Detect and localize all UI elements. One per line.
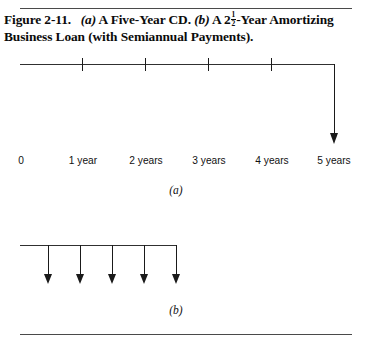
panel-b-payment-arrow-head-icon-2 xyxy=(76,274,84,284)
panel-b-payment-arrow-shaft-2 xyxy=(80,245,81,276)
panel-b-payment-arrow-shaft-4 xyxy=(144,245,145,276)
panel-b-payment-arrow-head-icon-3 xyxy=(108,274,116,284)
panel-b-payment-arrow-head-icon-1 xyxy=(44,274,52,284)
panel-b-payment-arrow-shaft-1 xyxy=(48,245,49,276)
panel-b-amortizing-loan: (b) xyxy=(0,0,372,350)
panel-b-payment-arrow-shaft-5 xyxy=(176,245,177,276)
figure-page: Figure 2-11. (a) A Five-Year CD. (b) A 2… xyxy=(0,0,372,350)
panel-b-payment-arrow-shaft-3 xyxy=(112,245,113,276)
panel-b-payment-arrow-head-icon-5 xyxy=(172,274,180,284)
panel-b-timeline-axis xyxy=(20,245,177,246)
bottom-horizontal-rule xyxy=(20,334,352,335)
panel-b-sublabel: (b) xyxy=(169,304,182,316)
panel-b-payment-arrow-head-icon-4 xyxy=(140,274,148,284)
